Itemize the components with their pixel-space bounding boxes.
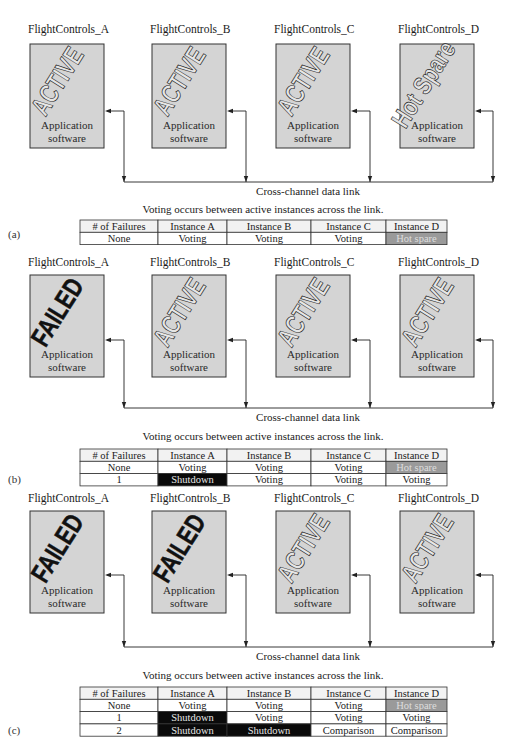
header-label: Instance B xyxy=(247,688,292,699)
header-label: Instance D xyxy=(394,450,440,461)
software-label-line1: Application xyxy=(41,584,93,596)
cell-value: Voting xyxy=(255,462,284,473)
arrowhead-icon xyxy=(368,402,372,408)
header-label: # of Failures xyxy=(92,450,145,461)
cell-value: 2 xyxy=(116,725,121,736)
link-wire xyxy=(107,340,124,408)
redundancy-diagram: (a)FlightControls_AACTIVEApplicationsoft… xyxy=(0,0,525,748)
channel-name: FlightControls_C xyxy=(274,256,355,269)
arrowhead-icon xyxy=(244,176,248,182)
software-label-line1: Application xyxy=(287,584,339,596)
header-label: Instance A xyxy=(170,450,215,461)
link-wire xyxy=(107,575,124,647)
arrowhead-icon xyxy=(244,402,248,408)
channel-d: FlightControls_DACTIVEApplicationsoftwar… xyxy=(395,492,495,647)
table-row: 1ShutdownVotingVotingVoting xyxy=(80,474,447,486)
panel-c: (c)FlightControls_AFAILEDApplicationsoft… xyxy=(8,492,495,737)
header-label: Instance B xyxy=(247,450,292,461)
cell-value: Voting xyxy=(179,233,208,244)
table-row: 2ShutdownShutdownComparisonComparison xyxy=(80,724,447,736)
voting-caption: Voting occurs between active instances a… xyxy=(142,430,383,442)
channel-a: FlightControls_AFAILEDApplicationsoftwar… xyxy=(25,492,126,647)
cell-value: Voting xyxy=(255,700,284,711)
software-label-line1: Application xyxy=(287,119,339,131)
cell-value: None xyxy=(108,462,131,473)
cell-value: None xyxy=(108,700,131,711)
header-label: Instance A xyxy=(170,688,215,699)
software-label-line1: Application xyxy=(411,584,463,596)
header-label: Instance A xyxy=(170,221,215,232)
header-label: Instance D xyxy=(394,221,440,232)
link-wire xyxy=(229,575,246,647)
failure-table: # of FailuresInstance AInstance BInstanc… xyxy=(80,220,447,245)
header-label: Instance D xyxy=(394,688,440,699)
cell-value: Comparison xyxy=(323,725,375,736)
voting-caption: Voting occurs between active instances a… xyxy=(142,203,383,215)
header-label: # of Failures xyxy=(92,221,145,232)
table-header-row: # of FailuresInstance AInstance BInstanc… xyxy=(80,220,447,232)
channel-d: FlightControls_DACTIVEApplicationsoftwar… xyxy=(395,256,495,408)
link-wire xyxy=(353,340,370,408)
channel-name: FlightControls_C xyxy=(274,492,355,505)
software-label-line1: Application xyxy=(163,348,215,360)
table-header-row: # of FailuresInstance AInstance BInstanc… xyxy=(80,687,447,699)
channel-name: FlightControls_C xyxy=(274,23,355,36)
arrowhead-icon xyxy=(105,109,111,113)
arrowhead-icon xyxy=(122,641,126,647)
link-wire xyxy=(353,575,370,647)
channel-name: FlightControls_B xyxy=(150,23,231,36)
channel-a: FlightControls_AACTIVEApplicationsoftwar… xyxy=(25,23,126,182)
cell-value: Voting xyxy=(255,712,284,723)
failure-table: # of FailuresInstance AInstance BInstanc… xyxy=(80,449,447,486)
cell-value: Shutdown xyxy=(171,474,214,485)
link-wire xyxy=(107,111,124,182)
arrowhead-icon xyxy=(227,338,233,342)
link-wire xyxy=(353,111,370,182)
channel-b: FlightControls_BACTIVEApplicationsoftwar… xyxy=(147,256,248,408)
arrowhead-icon xyxy=(368,641,372,647)
cell-value: Hot spare xyxy=(396,700,437,711)
failure-table: # of FailuresInstance AInstance BInstanc… xyxy=(80,687,447,736)
software-label-line2: software xyxy=(170,597,208,609)
channel-name: FlightControls_A xyxy=(28,492,110,505)
channel-c: FlightControls_CACTIVEApplicationsoftwar… xyxy=(271,23,372,182)
voting-caption: Voting occurs between active instances a… xyxy=(142,669,383,681)
arrowhead-icon xyxy=(122,402,126,408)
arrowhead-icon xyxy=(351,109,357,113)
software-label-line1: Application xyxy=(287,348,339,360)
channel-c: FlightControls_CACTIVEApplicationsoftwar… xyxy=(271,256,372,408)
cross-channel-link-label: Cross-channel data link xyxy=(256,411,360,423)
cross-channel-link-label: Cross-channel data link xyxy=(256,185,360,197)
panel-tag: (c) xyxy=(8,724,21,737)
software-label-line2: software xyxy=(418,132,456,144)
cell-value: Voting xyxy=(335,462,364,473)
link-wire xyxy=(477,340,493,408)
header-label: Instance C xyxy=(326,221,371,232)
arrowhead-icon xyxy=(105,573,111,577)
software-label-line1: Application xyxy=(163,119,215,131)
panel-a: (a)FlightControls_AACTIVEApplicationsoft… xyxy=(8,23,495,245)
cross-channel-link-label: Cross-channel data link xyxy=(256,650,360,662)
arrowhead-icon xyxy=(491,641,495,647)
panel-tag: (a) xyxy=(8,228,21,241)
arrowhead-icon xyxy=(244,641,248,647)
cell-value: Shutdown xyxy=(171,712,214,723)
channel-name: FlightControls_A xyxy=(28,256,110,269)
panel-tag: (b) xyxy=(8,473,21,486)
cell-value: Shutdown xyxy=(171,725,214,736)
cell-value: Hot spare xyxy=(396,462,437,473)
software-label-line1: Application xyxy=(163,584,215,596)
header-label: Instance B xyxy=(247,221,292,232)
software-label-line2: software xyxy=(418,361,456,373)
arrowhead-icon xyxy=(227,573,233,577)
cell-value: Voting xyxy=(335,700,364,711)
arrowhead-icon xyxy=(475,109,481,113)
channel-b: FlightControls_BACTIVEApplicationsoftwar… xyxy=(147,23,248,182)
link-wire xyxy=(477,111,493,182)
table-header-row: # of FailuresInstance AInstance BInstanc… xyxy=(80,449,447,461)
cell-value: Voting xyxy=(335,233,364,244)
cell-value: Comparison xyxy=(391,725,443,736)
software-label-line1: Application xyxy=(41,348,93,360)
channel-d: FlightControls_DHot SpareApplicationsoft… xyxy=(385,23,495,182)
channel-c: FlightControls_CACTIVEApplicationsoftwar… xyxy=(271,492,372,647)
